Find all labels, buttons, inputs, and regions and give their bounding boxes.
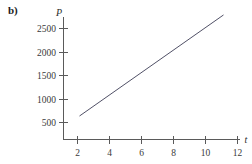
y-tick-label-1000: 1000 (37, 95, 56, 105)
x-tick-label-6: 6 (139, 148, 144, 158)
y-tick-label-500: 500 (42, 118, 57, 128)
x-tick-label-4: 4 (107, 148, 112, 158)
x-axis-title: t (245, 134, 248, 145)
x-tick-label-8: 8 (171, 148, 176, 158)
x-tick-label-2: 2 (75, 148, 80, 158)
y-axis-tick-labels: 500 1000 1500 2000 2500 (37, 24, 56, 128)
line-chart: 500 1000 1500 2000 2500 2 4 6 8 10 12 P … (0, 0, 252, 164)
y-tick-label-2500: 2500 (37, 24, 56, 34)
y-tick-label-1500: 1500 (37, 71, 56, 81)
figure-panel: b) 500 1000 1500 2000 2500 (0, 0, 252, 164)
x-tick-label-12: 12 (233, 148, 243, 158)
x-tick-label-10: 10 (201, 148, 211, 158)
data-series-line (80, 15, 224, 116)
y-axis-title: P (55, 7, 62, 18)
x-axis-tick-labels: 2 4 6 8 10 12 (75, 148, 242, 158)
y-tick-label-2000: 2000 (37, 48, 56, 58)
